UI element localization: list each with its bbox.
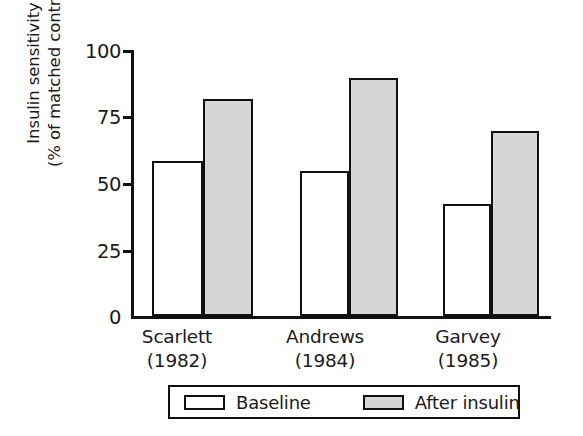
legend-label-after-insulin: After insulin	[415, 392, 520, 413]
bar-after-insulin-garvey	[491, 131, 539, 316]
y-tick-label-25: 25	[63, 240, 121, 263]
y-tick-label-75: 75	[63, 106, 121, 129]
x-axis-line	[131, 316, 551, 319]
x-axis-label-garvey-name: Garvey	[435, 326, 500, 347]
legend-item-after-insulin: After insulin	[363, 392, 520, 413]
x-axis-label-andrews-name: Andrews	[286, 326, 364, 347]
x-axis-label-garvey-year: (1985)	[413, 349, 523, 373]
x-axis-label-garvey: Garvey (1985)	[413, 325, 523, 373]
bar-baseline-scarlett	[152, 161, 203, 316]
y-tick-label-100: 100	[63, 40, 121, 63]
chart-legend: Baseline After insulin	[168, 385, 520, 419]
x-axis-label-scarlett-year: (1982)	[122, 349, 232, 373]
plot-area: 100 75 50 25 0	[131, 50, 551, 319]
y-tick-label-0: 0	[63, 306, 121, 329]
x-axis-label-andrews: Andrews (1984)	[270, 325, 380, 373]
y-tick-50	[123, 183, 132, 186]
bar-chart-figure: Insulin sensitivity (% of matched contro…	[0, 0, 583, 436]
bar-after-insulin-andrews	[349, 78, 398, 316]
y-tick-label-50: 50	[63, 173, 121, 196]
y-axis-title-line1: Insulin sensitivity	[23, 0, 44, 167]
y-axis-title-line2: (% of matched control)	[44, 0, 65, 167]
legend-swatch-after-insulin-icon	[363, 395, 404, 410]
y-tick-100	[123, 50, 132, 53]
x-axis-label-scarlett-name: Scarlett	[142, 326, 212, 347]
bar-after-insulin-scarlett	[203, 99, 253, 316]
y-tick-75	[123, 116, 132, 119]
x-axis-label-andrews-year: (1984)	[270, 349, 380, 373]
x-axis-label-scarlett: Scarlett (1982)	[122, 325, 232, 373]
bar-baseline-garvey	[443, 204, 491, 316]
bar-baseline-andrews	[300, 171, 349, 316]
legend-swatch-baseline-icon	[184, 395, 225, 410]
legend-item-baseline: Baseline	[184, 392, 311, 413]
y-tick-25	[123, 250, 132, 253]
legend-label-baseline: Baseline	[236, 392, 311, 413]
